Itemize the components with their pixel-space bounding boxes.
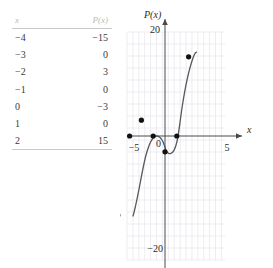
table-row: −3 0 — [12, 46, 112, 63]
cell-px: −3 — [54, 98, 112, 115]
value-table: x P(x) −4 −15 −3 0 −2 3 −1 — [12, 12, 112, 150]
cell-x: 2 — [12, 132, 54, 150]
data-point — [127, 133, 132, 138]
data-point — [139, 118, 144, 123]
cell-px: −15 — [54, 29, 112, 47]
cell-x: −1 — [12, 81, 54, 98]
cell-px: 15 — [54, 132, 112, 150]
cell-px: 0 — [54, 46, 112, 63]
table-row: 1 0 — [12, 115, 112, 132]
cell-px: 0 — [54, 115, 112, 132]
x-tick-label-5: 5 — [225, 142, 230, 153]
value-table-panel: x P(x) −4 −15 −3 0 −2 3 −1 — [12, 12, 112, 150]
table-body: −4 −15 −3 0 −2 3 −1 0 0 −3 — [12, 29, 112, 150]
column-header-px: P(x) — [54, 12, 112, 29]
cell-x: −4 — [12, 29, 54, 47]
data-point — [162, 149, 167, 154]
y-axis-label: P(x) — [143, 9, 162, 21]
table-row: 2 15 — [12, 132, 112, 150]
table-row: −1 0 — [12, 81, 112, 98]
table-row: −4 −15 — [12, 29, 112, 47]
origin-label: 0 — [156, 138, 161, 149]
column-header-x: x — [12, 12, 54, 29]
cell-x: 1 — [12, 115, 54, 132]
y-tick-label-20: 20 — [150, 24, 160, 35]
y-tick-label-neg20: −20 — [147, 243, 163, 254]
x-tick-label-neg5: −5 — [129, 142, 140, 153]
data-point — [174, 133, 179, 138]
table-row: −2 3 — [12, 63, 112, 80]
table-row: 0 −3 — [12, 98, 112, 115]
x-axis-arrow-icon — [236, 133, 242, 139]
polynomial-graph: P(x) x 20 −20 −5 5 0 — [120, 0, 273, 268]
data-point — [186, 54, 191, 59]
cell-px: 0 — [54, 81, 112, 98]
figure-root: x P(x) −4 −15 −3 0 −2 3 −1 — [0, 0, 273, 268]
cell-px: 3 — [54, 63, 112, 80]
y-axis-arrow-icon — [162, 19, 168, 25]
cell-x: −3 — [12, 46, 54, 63]
table-header: x P(x) — [12, 12, 112, 29]
cell-x: −2 — [12, 63, 54, 80]
table-header-row: x P(x) — [12, 12, 112, 29]
graph-panel: P(x) x 20 −20 −5 5 0 — [120, 0, 273, 268]
cell-x: 0 — [12, 98, 54, 115]
x-axis-label: x — [246, 124, 252, 135]
